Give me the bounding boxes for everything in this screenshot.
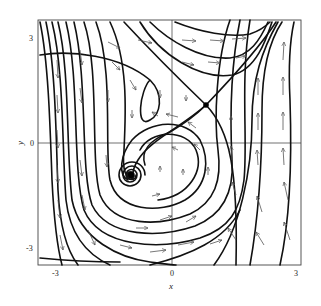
y-axis-label: y: [15, 141, 25, 146]
y-tick-neg3: -3: [26, 244, 33, 253]
x-axis-label: x: [168, 281, 173, 291]
x-tick-neg3: -3: [52, 269, 59, 278]
y-tick-0: 0: [30, 139, 34, 148]
phase-portrait: 3 0 -3 -3 0 3 x y: [0, 0, 321, 306]
x-tick-3: 3: [294, 269, 298, 278]
spiral-center: [128, 172, 134, 178]
saddle-point: [203, 102, 209, 108]
x-tick-0: 0: [170, 269, 174, 278]
y-tick-3: 3: [29, 34, 33, 43]
streamlines: [40, 20, 294, 265]
